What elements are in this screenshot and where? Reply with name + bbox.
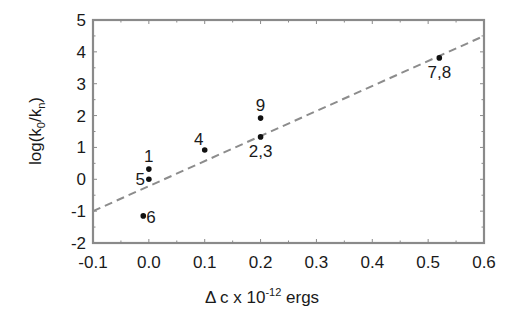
y-axis-label-mid: /k (26, 108, 45, 122)
y-tick-label: 0 (77, 170, 86, 189)
data-points: 156492,37,8 (135, 55, 451, 227)
x-axis-label-suffix: ergs (281, 288, 319, 307)
x-axis-label: Δ c x 10-12 ergs (205, 286, 319, 307)
x-tick-label: 0.4 (360, 253, 384, 272)
x-axis-label-prefix: Δ c x 10 (205, 288, 266, 307)
data-point-label: 9 (256, 96, 265, 115)
svg-text:log(k0/kn): log(k0/kn) (26, 97, 47, 165)
x-tick-label: 0.5 (416, 253, 440, 272)
y-axis-tick-labels: -2-1012345 (71, 11, 86, 253)
x-tick-label: 0.3 (305, 253, 329, 272)
x-axis-tick-labels: -0.10.00.10.20.30.40.50.6 (78, 253, 495, 272)
data-point-label: 1 (144, 147, 153, 166)
fit-line (93, 36, 484, 211)
x-tick-label: 0.6 (472, 253, 496, 272)
data-point (258, 115, 264, 121)
x-axis-label-superscript: -12 (265, 286, 281, 298)
x-tick-label: 0.0 (137, 253, 161, 272)
y-tick-label: 1 (77, 138, 86, 157)
regression-line (93, 36, 484, 211)
y-tick-label: 5 (77, 11, 86, 30)
data-point-label: 5 (135, 170, 144, 189)
y-tick-label: -1 (71, 202, 86, 221)
chart-canvas: 156492,37,8 -0.10.00.10.20.30.40.50.6 -2… (0, 0, 517, 318)
data-point (140, 213, 146, 219)
data-point (146, 176, 152, 182)
y-axis-label: log(k0/kn) (26, 97, 47, 165)
y-tick-label: 2 (77, 107, 86, 126)
y-tick-label: 4 (77, 43, 86, 62)
data-point (146, 166, 152, 172)
y-tick-label: -2 (71, 234, 86, 253)
data-point-label: 4 (194, 130, 203, 149)
svg-text:Δ c x 10-12 ergs: Δ c x 10-12 ergs (205, 286, 319, 307)
y-axis-label-prefix: log(k (26, 128, 45, 165)
data-point (437, 55, 443, 61)
x-tick-label: -0.1 (78, 253, 107, 272)
data-point (258, 134, 264, 140)
x-tick-label: 0.1 (193, 253, 217, 272)
data-point-label: 2,3 (249, 142, 273, 161)
scatter-chart: 156492,37,8 -0.10.00.10.20.30.40.50.6 -2… (0, 0, 517, 318)
y-tick-label: 3 (77, 75, 86, 94)
data-point-label: 6 (146, 208, 155, 227)
y-axis-label-suffix: ) (26, 97, 45, 103)
data-point-label: 7,8 (427, 63, 451, 82)
x-tick-label: 0.2 (249, 253, 273, 272)
